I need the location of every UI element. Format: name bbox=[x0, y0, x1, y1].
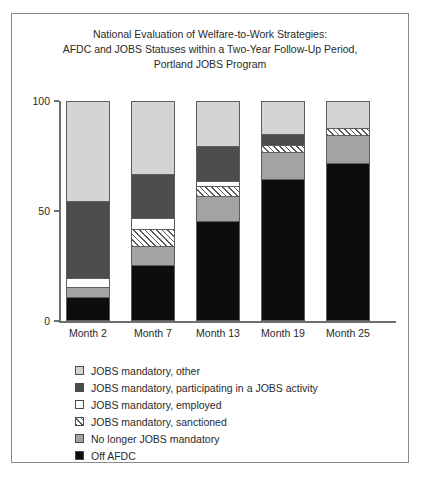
legend-swatch-icon bbox=[75, 451, 84, 460]
bar-month-2[interactable] bbox=[66, 101, 110, 321]
bar-segment-no-longer-jobs-mandatory[interactable] bbox=[197, 197, 239, 222]
bar-segment-off-afdc[interactable] bbox=[67, 298, 109, 320]
bar-month-13[interactable] bbox=[196, 101, 240, 321]
bar-segment-jobs-mandatory-participating-in-a-jobs-activity[interactable] bbox=[132, 175, 174, 219]
legend-item-label: JOBS mandatory, employed bbox=[91, 399, 222, 411]
legend-item[interactable]: Off AFDC bbox=[75, 447, 318, 464]
bar-segment-jobs-mandatory-sanctioned[interactable] bbox=[262, 146, 304, 154]
legend-item[interactable]: No longer JOBS mandatory bbox=[75, 430, 318, 447]
bar-segment-jobs-mandatory-sanctioned[interactable] bbox=[197, 187, 239, 197]
bar-segment-jobs-mandatory-participating-in-a-jobs-activity[interactable] bbox=[197, 147, 239, 182]
bar-segment-jobs-mandatory-other[interactable] bbox=[197, 102, 239, 147]
legend-item[interactable]: JOBS mandatory, other bbox=[75, 362, 318, 379]
bar-segment-off-afdc[interactable] bbox=[197, 222, 239, 320]
x-axis-line bbox=[59, 321, 396, 323]
bar-segment-jobs-mandatory-other[interactable] bbox=[67, 102, 109, 202]
legend-swatch-icon bbox=[75, 400, 84, 409]
legend-swatch-icon bbox=[75, 417, 84, 426]
chart-title-line-1: National Evaluation of Welfare-to-Work S… bbox=[12, 27, 408, 42]
y-tick-label-50: 50 bbox=[38, 205, 50, 217]
y-tick-label-100: 100 bbox=[32, 95, 50, 107]
x-tick-label-month-25: Month 25 bbox=[303, 327, 393, 339]
bar-month-7[interactable] bbox=[131, 101, 175, 321]
bar-segment-off-afdc[interactable] bbox=[262, 180, 304, 320]
legend-item[interactable]: JOBS mandatory, participating in a JOBS … bbox=[75, 379, 318, 396]
bar-month-19[interactable] bbox=[261, 101, 305, 321]
bar-segment-no-longer-jobs-mandatory[interactable] bbox=[67, 288, 109, 298]
legend-item[interactable]: JOBS mandatory, employed bbox=[75, 396, 318, 413]
chart-legend: JOBS mandatory, otherJOBS mandatory, par… bbox=[75, 362, 318, 464]
bar-segment-off-afdc[interactable] bbox=[132, 266, 174, 321]
legend-swatch-icon bbox=[75, 383, 84, 392]
bar-segment-no-longer-jobs-mandatory[interactable] bbox=[132, 247, 174, 266]
bar-segment-no-longer-jobs-mandatory[interactable] bbox=[262, 153, 304, 180]
y-tick-100 bbox=[54, 100, 59, 102]
legend-item[interactable]: JOBS mandatory, sanctioned bbox=[75, 413, 318, 430]
chart-title-line-2: AFDC and JOBS Statuses within a Two-Year… bbox=[12, 42, 408, 57]
legend-item-label: No longer JOBS mandatory bbox=[91, 433, 219, 445]
bar-month-25[interactable] bbox=[326, 101, 370, 321]
bar-segment-jobs-mandatory-other[interactable] bbox=[132, 102, 174, 175]
y-tick-0 bbox=[54, 320, 59, 322]
bar-segment-jobs-mandatory-participating-in-a-jobs-activity[interactable] bbox=[262, 135, 304, 146]
legend-swatch-icon bbox=[75, 366, 84, 375]
bar-segment-jobs-mandatory-sanctioned[interactable] bbox=[132, 230, 174, 247]
bar-segment-jobs-mandatory-participating-in-a-jobs-activity[interactable] bbox=[67, 202, 109, 278]
bar-segment-no-longer-jobs-mandatory[interactable] bbox=[327, 136, 369, 164]
y-tick-label-0: 0 bbox=[44, 315, 50, 327]
chart-title: National Evaluation of Welfare-to-Work S… bbox=[12, 27, 408, 72]
y-tick-50 bbox=[54, 210, 59, 212]
bar-segment-jobs-mandatory-employed[interactable] bbox=[132, 219, 174, 230]
bar-segment-jobs-mandatory-other[interactable] bbox=[327, 102, 369, 129]
chart-title-line-3: Portland JOBS Program bbox=[12, 57, 408, 72]
legend-item-label: Off AFDC bbox=[91, 450, 136, 462]
legend-item-label: JOBS mandatory, sanctioned bbox=[91, 416, 227, 428]
bar-segment-jobs-mandatory-other[interactable] bbox=[262, 102, 304, 135]
bar-segment-jobs-mandatory-employed[interactable] bbox=[67, 279, 109, 289]
bar-segment-off-afdc[interactable] bbox=[327, 164, 369, 320]
legend-item-label: JOBS mandatory, other bbox=[91, 365, 200, 377]
legend-swatch-icon bbox=[75, 434, 84, 443]
legend-item-label: JOBS mandatory, participating in a JOBS … bbox=[91, 382, 318, 394]
y-axis-line bbox=[59, 101, 61, 321]
figure-frame: National Evaluation of Welfare-to-Work S… bbox=[11, 13, 409, 463]
plot-area: 050100 Month 2Month 7Month 13Month 19Mon… bbox=[59, 101, 396, 321]
